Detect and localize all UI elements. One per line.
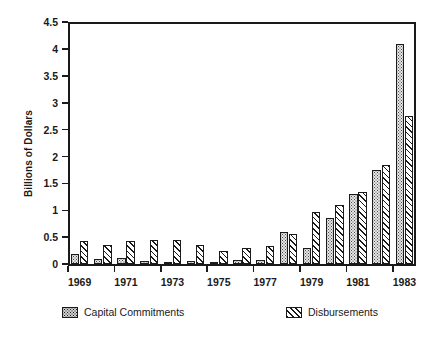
legend-label-disbursements: Disbursements — [308, 306, 378, 318]
bar-1973-capital-commitments — [164, 262, 173, 265]
axis-line-right — [414, 22, 416, 266]
y-axis-tick-label: 4 — [52, 43, 58, 55]
bar-1975-disbursements — [219, 251, 228, 264]
axis-line-top — [68, 22, 416, 24]
y-axis-tick: 0 — [62, 263, 68, 265]
x-axis-tick-label: 1981 — [346, 276, 369, 288]
legend-entry-disbursements: Disbursements — [286, 306, 378, 318]
x-axis-tick — [160, 266, 162, 272]
bar-1978-disbursements — [289, 234, 298, 265]
plot-area: 00.511.522.533.544.5 1969197119731975197… — [68, 22, 416, 266]
y-axis-tick: 3.5 — [62, 75, 68, 77]
legend-entry-capital-commitments: Capital Commitments — [62, 306, 184, 318]
x-axis-tick — [206, 266, 208, 272]
y-axis-tick: 0.5 — [62, 236, 68, 238]
legend-label-capital-commitments: Capital Commitments — [84, 306, 184, 318]
figure-caption — [0, 347, 448, 356]
y-axis-tick-label: 3 — [52, 97, 58, 109]
bar-1980-capital-commitments — [326, 218, 335, 264]
y-axis-tick: 4.5 — [62, 21, 68, 23]
x-axis-tick — [346, 266, 348, 272]
bar-1983-disbursements — [405, 116, 414, 264]
bar-1980-disbursements — [335, 205, 344, 264]
y-axis-tick-label: 0.5 — [43, 231, 58, 243]
x-axis-tick-label: 1971 — [114, 276, 137, 288]
y-axis-tick-label: 2.5 — [43, 124, 58, 136]
bar-1972-capital-commitments — [140, 261, 149, 264]
y-axis-tick-label: 4.5 — [43, 16, 58, 28]
bar-1974-capital-commitments — [187, 261, 196, 264]
x-axis-tick-label: 1975 — [207, 276, 230, 288]
bar-chart-figure: Billions of Dollars 00.511.522.533.544.5… — [0, 0, 448, 356]
bar-1972-disbursements — [150, 240, 159, 264]
bar-1975-capital-commitments — [210, 262, 219, 264]
x-axis-tick — [299, 266, 301, 272]
bar-1969-disbursements — [80, 241, 89, 264]
x-axis-tick-label: 1977 — [254, 276, 277, 288]
x-axis-tick — [114, 266, 116, 272]
x-axis-tick — [392, 266, 394, 272]
bar-1969-capital-commitments — [71, 254, 80, 264]
y-axis-tick: 2 — [62, 156, 68, 158]
y-axis-tick: 3 — [62, 102, 68, 104]
bar-1981-disbursements — [358, 192, 367, 265]
y-axis-title: Billions of Dollars — [23, 64, 34, 244]
bar-1982-disbursements — [382, 165, 391, 265]
bar-1982-capital-commitments — [372, 170, 381, 264]
y-axis-tick: 1 — [62, 210, 68, 212]
y-axis-tick-label: 1.5 — [43, 177, 58, 189]
y-axis-tick: 2.5 — [62, 129, 68, 131]
bar-1979-capital-commitments — [303, 248, 312, 264]
bar-1973-disbursements — [173, 240, 182, 264]
legend-swatch-disbursements — [286, 307, 302, 318]
bar-1978-capital-commitments — [280, 232, 289, 264]
bar-1976-disbursements — [242, 248, 251, 264]
bar-1971-disbursements — [126, 241, 135, 264]
y-axis-tick-label: 3.5 — [43, 70, 58, 82]
x-axis-tick-label: 1983 — [393, 276, 416, 288]
y-axis-tick: 1.5 — [62, 183, 68, 185]
bar-1981-capital-commitments — [349, 194, 358, 264]
x-axis-tick — [253, 266, 255, 272]
bar-1983-capital-commitments — [396, 44, 405, 265]
legend-swatch-capital-commitments — [62, 307, 78, 318]
y-axis-tick: 4 — [62, 48, 68, 50]
axis-line-left — [68, 22, 70, 266]
y-axis-tick-label: 1 — [52, 204, 58, 216]
x-axis-tick-label: 1973 — [161, 276, 184, 288]
bar-1971-capital-commitments — [117, 258, 126, 264]
x-axis-tick — [67, 266, 69, 272]
y-axis-tick-label: 2 — [52, 151, 58, 163]
bar-1970-disbursements — [103, 245, 112, 264]
bar-1977-disbursements — [266, 246, 275, 264]
bar-1979-disbursements — [312, 212, 321, 264]
bar-1977-capital-commitments — [256, 260, 265, 264]
axis-line-bottom — [68, 264, 416, 266]
y-axis-tick-label: 0 — [52, 258, 58, 270]
bar-1974-disbursements — [196, 245, 205, 264]
x-axis-tick-label: 1979 — [300, 276, 323, 288]
chart-legend: Capital Commitments Disbursements — [0, 306, 448, 328]
bar-1976-capital-commitments — [233, 260, 242, 264]
x-axis-tick-label: 1969 — [68, 276, 91, 288]
bar-1970-capital-commitments — [94, 259, 103, 264]
